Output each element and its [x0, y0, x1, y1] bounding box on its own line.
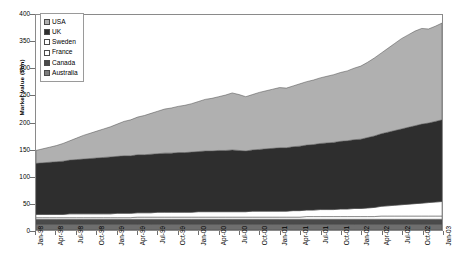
x-tick-label: Oct-02: [425, 226, 431, 270]
x-tick-label: Jan-00: [201, 226, 207, 270]
x-tick-label: Jul-01: [323, 226, 329, 270]
legend-swatch-icon: [44, 29, 50, 35]
x-tick-mark: [157, 231, 158, 235]
y-tick-mark: [30, 95, 35, 96]
x-tick-mark: [117, 231, 118, 235]
legend-item-australia: Australia: [44, 68, 78, 78]
x-tick-mark: [239, 231, 240, 235]
legend-swatch-icon: [44, 19, 50, 25]
x-tick-label: Oct-98: [99, 226, 105, 270]
x-tick-mark: [382, 231, 383, 235]
x-tick-label: Jul-99: [160, 226, 166, 270]
x-tick-mark: [198, 231, 199, 235]
legend-swatch-icon: [44, 50, 50, 56]
x-tick-label: Jan-98: [38, 226, 44, 270]
x-tick-label: Oct-00: [262, 226, 268, 270]
legend-label: France: [52, 49, 73, 56]
x-tick-mark: [96, 231, 97, 235]
x-tick-label: Oct-99: [180, 226, 186, 270]
legend-swatch-icon: [44, 39, 50, 45]
legend-label: Australia: [52, 70, 78, 77]
x-tick-label: Jan-01: [282, 226, 288, 270]
x-tick-label: Apr-02: [384, 226, 390, 270]
x-tick-label: Oct-01: [344, 226, 350, 270]
legend-item-uk: UK: [44, 27, 78, 37]
x-tick-label: Jan-99: [119, 226, 125, 270]
x-tick-mark: [280, 231, 281, 235]
x-tick-label: Apr-00: [221, 226, 227, 270]
chart-legend: USAUKSwedenFranceCanadaAustralia: [40, 13, 84, 82]
x-tick-label: Apr-99: [140, 226, 146, 270]
x-tick-mark: [423, 231, 424, 235]
legend-label: UK: [52, 29, 61, 36]
x-tick-mark: [361, 231, 362, 235]
legend-swatch-icon: [44, 60, 50, 66]
stacked-area-chart: Market value ($bn) 050100150200250300350…: [0, 0, 460, 274]
y-tick-mark: [30, 41, 35, 42]
legend-item-canada: Canada: [44, 58, 78, 68]
x-tick-mark: [321, 231, 322, 235]
x-tick-mark: [178, 231, 179, 235]
x-tick-label: Jan-02: [364, 226, 370, 270]
x-tick-mark: [341, 231, 342, 235]
legend-item-france: France: [44, 48, 78, 58]
x-tick-mark: [55, 231, 56, 235]
legend-label: USA: [52, 19, 66, 26]
x-tick-label: Jul-02: [405, 226, 411, 270]
x-tick-mark: [443, 231, 444, 235]
x-tick-label: Apr-98: [58, 226, 64, 270]
y-tick-mark: [30, 150, 35, 151]
y-tick-mark: [30, 204, 35, 205]
y-tick-mark: [30, 123, 35, 124]
x-tick-mark: [219, 231, 220, 235]
legend-label: Sweden: [52, 39, 76, 46]
x-tick-mark: [76, 231, 77, 235]
x-tick-mark: [137, 231, 138, 235]
x-tick-mark: [35, 231, 36, 235]
x-tick-mark: [259, 231, 260, 235]
y-tick-mark: [30, 14, 35, 15]
x-tick-label: Jan-03: [446, 226, 452, 270]
x-tick-label: Jul-98: [78, 226, 84, 270]
x-tick-mark: [402, 231, 403, 235]
x-tick-label: Apr-01: [303, 226, 309, 270]
legend-swatch-icon: [44, 70, 50, 76]
legend-label: Canada: [52, 60, 75, 67]
y-tick-mark: [30, 177, 35, 178]
x-tick-mark: [300, 231, 301, 235]
legend-item-sweden: Sweden: [44, 37, 78, 47]
y-tick-mark: [30, 68, 35, 69]
legend-item-usa: USA: [44, 17, 78, 27]
x-tick-label: Jul-00: [242, 226, 248, 270]
